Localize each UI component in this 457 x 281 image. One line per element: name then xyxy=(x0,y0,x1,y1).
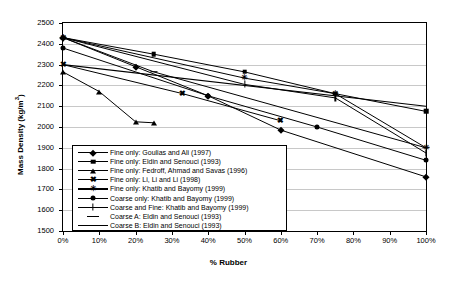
legend-item[interactable]: ✳Fine only: Khatib and Bayomy (1999) xyxy=(73,184,286,193)
y-axis-title: Mass Density (kg/m3) xyxy=(14,94,25,175)
legend-label: Coarse B: Eldin and Senouci (1993) xyxy=(110,221,222,230)
y-axis-tick-label: 1700 xyxy=(18,185,54,193)
legend-symbol xyxy=(76,221,110,230)
x-axis-tick-label: 30% xyxy=(152,237,192,245)
legend-label: Coarse and Fine: Khatib and Bayomy (1999… xyxy=(110,203,249,212)
x-axis-tick-mark xyxy=(136,232,137,235)
legend-label: Fine only: Eldin and Senouci (1993) xyxy=(110,157,221,166)
x-axis-tick-label: 0% xyxy=(43,237,83,245)
x-axis-tick-label: 80% xyxy=(333,237,373,245)
y-axis-tick-mark xyxy=(59,148,62,149)
x-axis-tick-label: 70% xyxy=(297,237,337,245)
x-axis-tick-mark xyxy=(172,232,173,235)
legend-item[interactable]: Coarse and Fine: Khatib and Bayomy (1999… xyxy=(73,203,286,212)
y-axis-tick-label: 2300 xyxy=(18,61,54,69)
legend-item[interactable]: Fine only: Fedroff, Ahmad and Savas (199… xyxy=(73,166,286,175)
y-axis-tick-label: 2500 xyxy=(18,19,54,27)
x-axis-tick-mark xyxy=(208,232,209,235)
legend-item[interactable]: Coarse A: Eldin and Senouci (1993) xyxy=(73,212,286,221)
y-axis-tick-mark xyxy=(59,169,62,170)
x-axis-title: % Rubber xyxy=(0,258,457,267)
x-axis-tick-label: 60% xyxy=(261,237,301,245)
legend-item[interactable]: Fine only: Goulias and Ali (1997) xyxy=(73,148,286,157)
chart-container: ✖✖✖✳✳✳✳ 15001600170018001900200021002200… xyxy=(0,0,457,281)
x-axis-tick-mark xyxy=(99,232,100,235)
x-axis-tick-mark xyxy=(426,232,427,235)
legend-label: Fine only: Li, Li and Li (1998) xyxy=(110,175,200,184)
marker-star-icon: ✳ xyxy=(89,185,97,193)
x-axis-tick-mark xyxy=(317,232,318,235)
y-axis-tick-label: 2200 xyxy=(18,81,54,89)
y-axis-tick-label: 1600 xyxy=(18,206,54,214)
legend-item[interactable]: Fine only: Eldin and Senouci (1993) xyxy=(73,157,286,166)
x-axis-tick-label: 50% xyxy=(225,237,265,245)
marker-circle-icon xyxy=(91,196,96,201)
legend-symbol xyxy=(76,203,110,212)
legend-symbol xyxy=(76,148,110,157)
y-axis-tick-mark xyxy=(59,106,62,107)
y-axis-tick-label: 2400 xyxy=(18,40,54,48)
legend-symbol xyxy=(76,212,110,221)
y-axis-tick-mark xyxy=(59,231,62,232)
x-axis-tick-mark xyxy=(245,232,246,235)
y-axis-tick-mark xyxy=(59,210,62,211)
legend-label: Coarse only: Khatib and Bayomy (1999) xyxy=(110,194,234,203)
legend-symbol xyxy=(76,157,110,166)
marker-triangle-icon xyxy=(90,168,96,173)
x-axis-tick-label: 40% xyxy=(188,237,228,245)
marker-plus-icon xyxy=(92,204,93,211)
legend-item[interactable]: Coarse B: Eldin and Senouci (1993) xyxy=(73,221,286,230)
x-axis-tick-label: 100% xyxy=(406,237,446,245)
y-axis-tick-mark xyxy=(59,44,62,45)
x-axis-tick-label: 90% xyxy=(370,237,410,245)
chart-legend: Fine only: Goulias and Ali (1997)Fine on… xyxy=(72,145,287,231)
legend-symbol: ✳ xyxy=(76,184,110,193)
marker-diamond-icon xyxy=(90,149,96,155)
y-axis-title-text: Mass Density (kg/m xyxy=(16,100,25,175)
legend-label: Fine only: Khatib and Bayomy (1999) xyxy=(110,184,225,193)
x-axis-tick-mark xyxy=(353,232,354,235)
axis-layer: 1500160017001800190020002100220023002400… xyxy=(0,0,457,281)
marker-square-icon xyxy=(91,159,96,164)
x-axis-tick-mark xyxy=(281,232,282,235)
legend-label: Fine only: Goulias and Ali (1997) xyxy=(110,148,211,157)
x-axis-tick-label: 20% xyxy=(116,237,156,245)
y-axis-tick-label: 1500 xyxy=(18,227,54,235)
y-axis-title-exponent: 3 xyxy=(14,97,20,100)
legend-item[interactable]: ✖Fine only: Li, Li and Li (1998) xyxy=(73,175,286,184)
legend-item[interactable]: Coarse only: Khatib and Bayomy (1999) xyxy=(73,193,286,202)
legend-label: Fine only: Fedroff, Ahmad and Savas (199… xyxy=(110,166,247,175)
legend-symbol xyxy=(76,194,110,203)
marker-bowtie-icon: ✖ xyxy=(89,176,97,184)
legend-line-icon xyxy=(87,216,99,218)
x-axis-title-text: % Rubber xyxy=(210,258,247,267)
y-axis-tick-mark xyxy=(59,189,62,190)
y-axis-tick-mark xyxy=(59,127,62,128)
legend-label: Coarse A: Eldin and Senouci (1993) xyxy=(110,212,221,221)
y-axis-tick-mark xyxy=(59,65,62,66)
x-axis-tick-mark xyxy=(390,232,391,235)
y-axis-tick-mark xyxy=(59,85,62,86)
y-axis-tick-mark xyxy=(59,23,62,24)
x-axis-tick-label: 10% xyxy=(79,237,119,245)
y-axis-title-tail: ) xyxy=(16,94,25,97)
legend-line-icon xyxy=(78,225,108,226)
x-axis-tick-mark xyxy=(63,232,64,235)
